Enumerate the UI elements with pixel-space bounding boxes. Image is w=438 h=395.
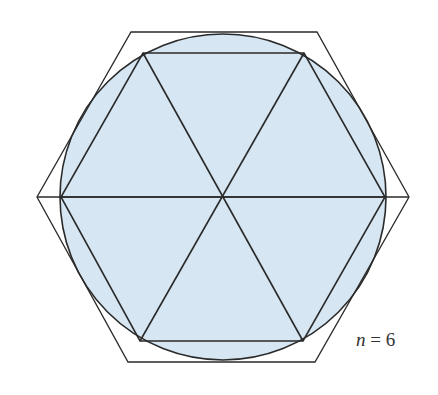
label-variable: n: [356, 329, 366, 350]
n-equals-label: n = 6: [356, 329, 395, 351]
label-equals: =: [366, 329, 386, 350]
label-value: 6: [386, 329, 396, 350]
